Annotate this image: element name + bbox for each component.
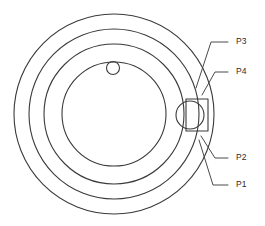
side-boss-circle (176, 101, 204, 129)
diagram-svg: P3 P4 P2 P1 (0, 0, 265, 226)
callout-label-p4: P4 (236, 66, 247, 76)
inner-bore-circle (62, 62, 166, 166)
second-circle (29, 29, 199, 199)
leader-line-p1 (199, 140, 228, 185)
technical-drawing-canvas: P3 P4 P2 P1 (0, 0, 265, 226)
callout-label-p2: P2 (236, 152, 247, 162)
callout-label-p3: P3 (236, 36, 247, 46)
small-hole-circle (107, 62, 120, 75)
callout-label-p1: P1 (236, 179, 247, 189)
side-boss-rect (186, 99, 208, 131)
third-circle (44, 44, 184, 184)
